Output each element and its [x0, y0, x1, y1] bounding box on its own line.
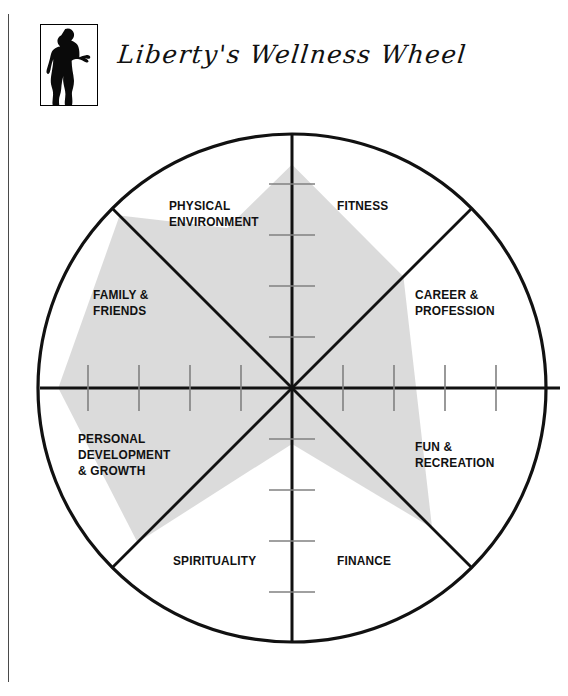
wheel-svg	[0, 0, 568, 696]
segment-label-personal-development-growth: PERSONAL DEVELOPMENT & GROWTH	[78, 431, 170, 479]
segment-label-fun-recreation: FUN & RECREATION	[415, 439, 494, 471]
wellness-wheel-chart: FITNESS PHYSICAL ENVIRONMENT FAMILY & FR…	[0, 0, 568, 696]
segment-label-physical-environment: PHYSICAL ENVIRONMENT	[169, 198, 259, 230]
segment-label-fitness: FITNESS	[337, 198, 388, 214]
page-canvas: Liberty's Wellness Wheel	[0, 0, 568, 696]
segment-label-spirituality: SPIRITUALITY	[173, 553, 256, 569]
segment-label-finance: FINANCE	[337, 553, 391, 569]
segment-label-career-profession: CAREER & PROFESSION	[415, 287, 495, 319]
segment-label-family-friends: FAMILY & FRIENDS	[93, 287, 149, 319]
